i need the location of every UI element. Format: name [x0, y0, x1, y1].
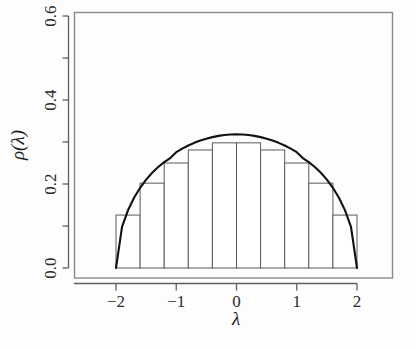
chart-figure-root: 0.00.20.40.6 ρ(λ) −2−1012 λ [0, 0, 416, 349]
x-axis-tick-label: 1 [293, 292, 302, 311]
histogram-bar [237, 143, 261, 268]
y-axis-tick-label: 0.4 [41, 89, 60, 111]
y-axis-tick-label: 0.6 [41, 5, 60, 26]
y-axis-title: ρ(λ) [7, 130, 29, 161]
x-axis-title: λ [231, 308, 240, 329]
y-axis-tick-label: 0.2 [41, 173, 60, 194]
semicircle-density-plot: 0.00.20.40.6 ρ(λ) −2−1012 λ [0, 0, 416, 349]
histogram-bar [285, 163, 309, 268]
x-axis-tick-label: −1 [167, 292, 185, 311]
histogram-bar [140, 183, 164, 268]
histogram-bar [261, 150, 285, 268]
histogram-bar [309, 183, 333, 268]
x-axis-tick-label: 2 [353, 292, 362, 311]
x-axis-tick-label: −2 [107, 292, 125, 311]
histogram-bar [188, 150, 212, 268]
histogram-bar [164, 163, 188, 268]
histogram-bar [212, 143, 236, 268]
y-axis-tick-label: 0.0 [41, 257, 60, 278]
